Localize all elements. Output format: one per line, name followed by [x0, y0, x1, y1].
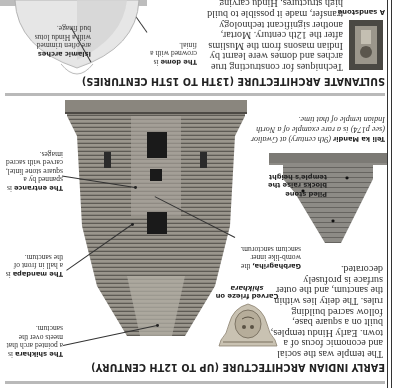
page-border-inner — [387, 0, 388, 388]
section-rule — [5, 381, 385, 384]
leader-dot — [134, 186, 137, 189]
section-rule — [5, 93, 385, 96]
sultanate-body: Techniques for constructing true arches … — [203, 0, 343, 72]
sandstone-caption: A sandstone — [338, 8, 385, 16]
sandstone-image — [349, 20, 383, 70]
early-indian-body: The temple was the social and economic f… — [268, 264, 383, 359]
label-garbhagriha: Garbhagriha, the womb-like inner sanctum… — [239, 244, 301, 270]
label-piled-stone: Piled stone blocks raise the temple's he… — [267, 172, 327, 198]
label-islamic-arches: Islamic arches are often trimmed with a … — [31, 24, 91, 58]
label-dome: The dome is crowned with a finial. — [141, 40, 197, 66]
label-shikhara: The shikhara is a pointed arch that meet… — [5, 324, 63, 358]
leader-dot — [131, 223, 134, 226]
section-heading-early-indian: EARLY INDIAN ARCHITECTURE (UP TO 12TH CE… — [91, 362, 385, 373]
guidebook-page: EARLY INDIAN ARCHITECTURE (UP TO 12TH CE… — [0, 0, 407, 388]
label-entrance: The entrance is spanned by a square ston… — [5, 149, 63, 192]
piled-stone-image — [269, 153, 387, 243]
label-mandapa: The mandapa is a hall in front of the sa… — [5, 252, 63, 278]
leader-dot — [156, 324, 159, 327]
teli-ka-mandir-caption: Teli ka Mandir (9th century) at Gwalior … — [245, 115, 385, 144]
teli-ka-mandir-photo — [65, 100, 247, 336]
page-border-outer — [391, 0, 392, 388]
